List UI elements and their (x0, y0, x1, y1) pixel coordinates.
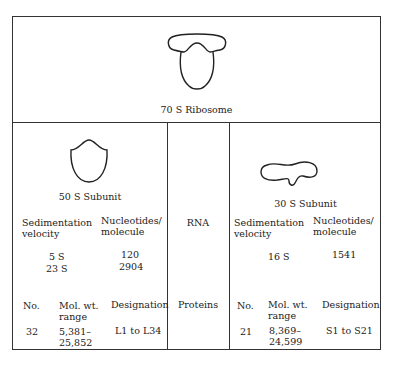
rna-sed-23s: 23 S (46, 264, 68, 274)
rna-nuc-2904: 2904 (119, 262, 143, 272)
protein-count: 32 (26, 327, 38, 337)
protein-count: 21 (240, 327, 252, 337)
mol-wt-header: Mol. wt. (59, 301, 99, 311)
mol-wt-min: 5,381– (59, 327, 91, 337)
designation-value: L1 to L34 (115, 326, 161, 336)
mol-wt-header-2: range (59, 312, 87, 322)
designation-header: Designation (322, 300, 380, 310)
subunit-50s-column: 50 S Subunit Sedimentation velocity Nucl… (13, 122, 168, 349)
nucleotides-header-2: molecule (313, 227, 357, 237)
subunit-50s-icon (69, 138, 109, 184)
ribosome-table: 70 S Ribosome 50 S Subunit Sedimentation… (12, 16, 381, 350)
rna-nuc-120: 120 (121, 250, 139, 260)
sed-velocity-header: Sedimentation (234, 218, 304, 228)
sed-velocity-header: Sedimentation (22, 218, 92, 228)
subunit-30s-icon (259, 159, 321, 191)
middle-column: RNA Proteins (167, 122, 230, 349)
mol-wt-min: 8,369– (269, 326, 301, 336)
rna-label: RNA (167, 218, 229, 228)
ribosome-label: 70 S Ribosome (13, 105, 380, 115)
proteins-label: Proteins (167, 300, 229, 310)
mol-wt-header-2: range (268, 311, 296, 321)
mol-wt-max: 24,599 (269, 337, 302, 347)
designation-header: Designation (111, 300, 169, 310)
subunit-30s-column: 30 S Subunit Sedimentation velocity Nucl… (229, 122, 380, 349)
nucleotides-header: Nucleotides/ (313, 216, 374, 226)
ribosome-70s-icon (166, 33, 228, 93)
ribosome-section: 70 S Ribosome (13, 17, 380, 123)
nucleotides-header-2: molecule (101, 227, 145, 237)
nucleotides-header: Nucleotides/ (101, 216, 162, 226)
mol-wt-header: Mol. wt. (268, 300, 308, 310)
protein-no-header: No. (237, 301, 254, 311)
designation-value: S1 to S21 (326, 326, 373, 336)
protein-no-header: No. (23, 301, 40, 311)
rna-nuc-1541: 1541 (332, 250, 356, 260)
rna-sed-16s: 16 S (268, 252, 290, 262)
subunit-30s-label: 30 S Subunit (229, 199, 382, 209)
sed-velocity-header-2: velocity (234, 229, 271, 239)
mol-wt-max: 25,852 (59, 338, 92, 348)
rna-sed-5s: 5 S (49, 252, 65, 262)
subunit-50s-label: 50 S Subunit (13, 192, 167, 202)
sed-velocity-header-2: velocity (22, 229, 59, 239)
